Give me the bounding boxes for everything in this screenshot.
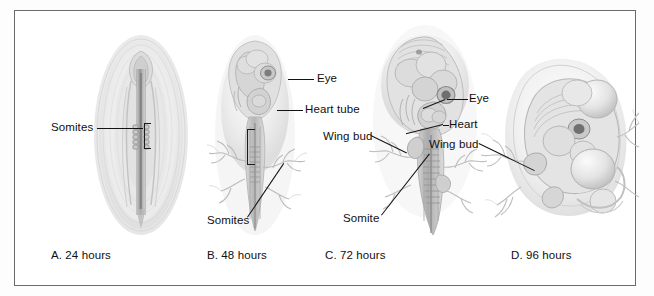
figure-border-frame: Somites A. 24 hours	[14, 10, 636, 286]
label-wing-bud-c: Wing bud	[323, 131, 372, 143]
caption-panel-d: D. 96 hours	[511, 249, 572, 261]
label-wing-bud-d: Wing bud	[429, 139, 478, 151]
embryo-illustration-48h	[205, 29, 309, 241]
caption-panel-c: C. 72 hours	[325, 249, 386, 261]
figure-root: Somites A. 24 hours	[0, 0, 654, 296]
label-somite-c: Somite	[343, 213, 379, 225]
label-somites-a: Somites	[51, 122, 93, 134]
label-heart-c: Heart	[449, 119, 478, 131]
caption-panel-b: B. 48 hours	[207, 249, 267, 261]
leader-somites-a	[97, 128, 143, 129]
label-somites-b: Somites	[207, 215, 249, 227]
panel-a-24-hours: Somites A. 24 hours	[15, 11, 185, 285]
caption-panel-a: A. 24 hours	[51, 249, 111, 261]
somites-bracket-b	[247, 129, 255, 165]
leader-eye-c	[447, 99, 468, 100]
somites-bracket-a	[144, 123, 151, 149]
leader-heart-tube-b	[277, 110, 303, 111]
leader-eye-b	[288, 79, 314, 80]
panel-d-96-hours: Wing bud D. 96 hours	[477, 11, 637, 285]
leader-heart-c	[443, 125, 449, 126]
panel-b-48-hours: Eye Heart tube Somites B. 48 hours	[185, 11, 317, 285]
embryo-illustration-96h	[481, 41, 641, 235]
embryo-illustration-24h	[93, 29, 189, 241]
